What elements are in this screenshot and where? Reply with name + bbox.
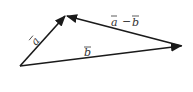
svg-text:b: b — [84, 46, 91, 59]
label-b: b — [84, 46, 91, 59]
svg-text:b: b — [132, 16, 139, 29]
svg-text:a: a — [28, 35, 42, 48]
svg-text:−: − — [122, 15, 131, 28]
label-a-minus-b: a − b — [111, 15, 139, 29]
svg-text:a: a — [111, 16, 118, 29]
vector-a-arrow — [20, 16, 65, 66]
label-a: a — [28, 35, 42, 48]
vector-b-arrow — [20, 46, 181, 66]
vector-diagram: a b a − b — [0, 0, 193, 92]
